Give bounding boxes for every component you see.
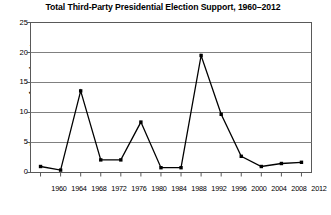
data-point-marker bbox=[300, 161, 303, 164]
data-point-marker bbox=[119, 158, 122, 161]
data-point-marker bbox=[39, 165, 42, 168]
data-point-marker bbox=[280, 162, 283, 165]
plot-frame bbox=[31, 23, 312, 173]
data-point-marker bbox=[199, 54, 202, 57]
data-point-marker bbox=[240, 155, 243, 158]
y-axis-ticks bbox=[27, 23, 31, 173]
data-point-marker bbox=[139, 120, 142, 123]
data-point-marker bbox=[219, 113, 222, 116]
x-axis-ticks bbox=[41, 173, 302, 177]
data-point-marker bbox=[59, 168, 62, 171]
data-point-marker bbox=[159, 166, 162, 169]
data-point-marker bbox=[99, 158, 102, 161]
data-point-marker bbox=[179, 166, 182, 169]
data-point-marker bbox=[260, 165, 263, 168]
data-point-marker bbox=[79, 89, 82, 92]
